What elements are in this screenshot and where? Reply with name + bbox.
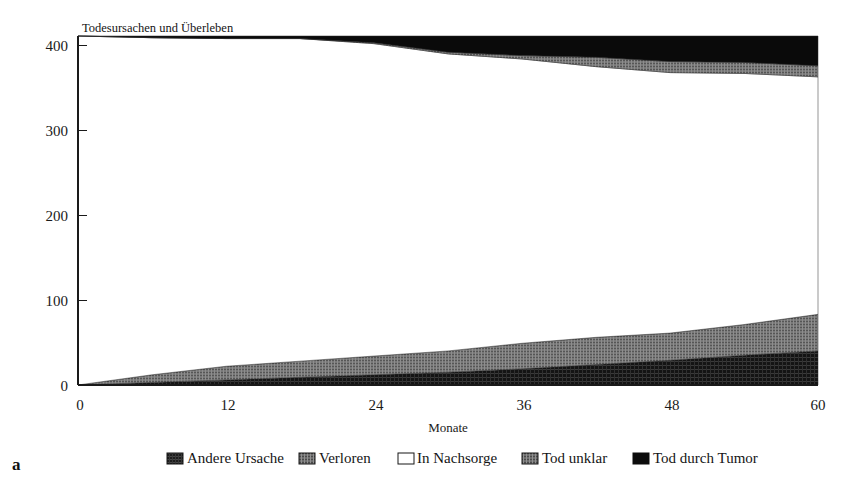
legend-swatch-tod-unklar	[522, 453, 538, 464]
legend-swatch-verloren	[299, 453, 315, 464]
x-tick-label-12: 12	[221, 397, 236, 413]
x-axis-title: Monate	[428, 420, 468, 435]
legend-label-in-nachsorge: In Nachsorge	[417, 450, 497, 466]
legend-swatch-in-nachsorge	[398, 453, 414, 464]
x-tick-label-48: 48	[665, 397, 680, 413]
y-tick-label-100: 100	[46, 293, 69, 309]
panel-letter: a	[12, 455, 21, 474]
legend-item-in-nachsorge[interactable]: In Nachsorge	[398, 450, 497, 466]
y-tick-label-400: 400	[46, 38, 69, 54]
x-tick-label-24: 24	[369, 397, 385, 413]
x-tick-label-60: 60	[811, 397, 826, 413]
figure-container: 400 300 200 100 0 0 12 24 36 48 60 Monat…	[0, 0, 862, 497]
x-tick-label-0: 0	[76, 397, 84, 413]
chart-title: Todesursachen und Überleben	[82, 21, 234, 35]
y-tick-label-300: 300	[46, 123, 69, 139]
y-tick-label-200: 200	[46, 208, 69, 224]
legend-label-andere-ursache: Andere Ursache	[187, 450, 284, 466]
legend-swatch-tod-durch-tumor	[633, 453, 649, 464]
legend-label-verloren: Verloren	[319, 450, 371, 466]
legend-item-andere-ursache[interactable]: Andere Ursache	[167, 450, 284, 466]
legend-item-verloren[interactable]: Verloren	[299, 450, 371, 466]
y-tick-label-0: 0	[61, 378, 69, 394]
legend-label-tod-unklar: Tod unklar	[542, 450, 607, 466]
legend-item-tod-durch-tumor[interactable]: Tod durch Tumor	[633, 450, 758, 466]
legend-swatch-andere-ursache	[167, 453, 183, 464]
legend-item-tod-unklar[interactable]: Tod unklar	[522, 450, 607, 466]
x-tick-label-36: 36	[517, 397, 533, 413]
stacked-area-chart: 400 300 200 100 0 0 12 24 36 48 60 Monat…	[0, 0, 862, 497]
chart-legend: Andere Ursache Verloren In Nachsorge Tod…	[167, 450, 758, 466]
legend-label-tod-durch-tumor: Tod durch Tumor	[653, 450, 758, 466]
